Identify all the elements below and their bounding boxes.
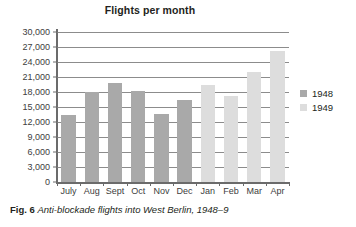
bar-dec-1948 (177, 100, 191, 182)
bar-apr-1949 (270, 51, 284, 182)
bar-sept-1948 (108, 83, 122, 182)
x-axis-label-oct: Oct (131, 186, 145, 196)
x-axis-label-apr: Apr (270, 186, 284, 196)
y-axis-tick-label: 9,000 (0, 132, 50, 142)
legend-item-1949: 1949 (300, 102, 356, 113)
y-axis-tick (53, 62, 58, 63)
legend-label: 1948 (312, 88, 333, 99)
y-axis-tick (53, 152, 58, 153)
bar-july-1948 (61, 115, 75, 183)
legend-item-1948: 1948 (300, 88, 356, 99)
x-axis-label-dec: Dec (177, 186, 193, 196)
x-axis-label-july: July (61, 186, 77, 196)
y-axis-tick (53, 122, 58, 123)
y-axis-tick-label: 24,000 (0, 57, 50, 67)
x-axis-label-mar: Mar (246, 186, 262, 196)
y-axis-tick (53, 77, 58, 78)
y-axis-tick (53, 182, 58, 183)
bar-oct-1948 (131, 91, 145, 182)
x-axis-label-feb: Feb (223, 186, 239, 196)
y-axis-tick-label: 18,000 (0, 87, 50, 97)
legend-label: 1949 (312, 102, 333, 113)
y-axis-tick-label: 6,000 (0, 147, 50, 157)
bar-aug-1948 (85, 92, 99, 182)
x-axis-labels: JulyAugSeptOctNovDecJanFebMarApr (57, 186, 289, 200)
y-axis-tick-label: 21,000 (0, 72, 50, 82)
y-axis-tick (53, 167, 58, 168)
bars-group (57, 32, 289, 182)
y-axis-tick (53, 47, 58, 48)
caption-text: Anti-blockade flights into West Berlin, … (37, 204, 228, 215)
chart-title: Flights per month (0, 4, 300, 16)
x-axis-label-nov: Nov (153, 186, 169, 196)
caption-prefix: Fig. 6 (10, 204, 35, 215)
bar-feb-1949 (224, 96, 238, 182)
chart-legend: 19481949 (300, 88, 356, 116)
figure-container: Flights per month 30,00027,00024,00021,0… (0, 0, 356, 227)
y-axis-tick-label: 27,000 (0, 42, 50, 52)
y-axis-tick-label: 3,000 (0, 162, 50, 172)
plot-area (57, 32, 289, 182)
y-axis-tick-label: 30,000 (0, 27, 50, 37)
x-axis-label-jan: Jan (201, 186, 216, 196)
figure-caption: Fig. 6 Anti-blockade flights into West B… (10, 204, 350, 215)
y-axis-tick (53, 107, 58, 108)
bar-jan-1949 (201, 85, 215, 183)
legend-swatch-icon (300, 90, 307, 97)
y-axis-tick-label: 12,000 (0, 117, 50, 127)
y-axis-tick (53, 137, 58, 138)
y-axis-tick-label: 15,000 (0, 102, 50, 112)
x-axis-tick (289, 182, 290, 186)
x-axis-label-sept: Sept (106, 186, 125, 196)
x-axis-label-aug: Aug (84, 186, 100, 196)
bar-mar-1949 (247, 72, 261, 183)
y-axis-tick (53, 32, 58, 33)
bar-nov-1948 (154, 114, 168, 183)
y-axis-tick-label: 0 (0, 177, 50, 187)
y-axis-labels: 30,00027,00024,00021,00018,00015,00012,0… (0, 32, 50, 182)
y-axis-tick (53, 92, 58, 93)
legend-swatch-icon (300, 104, 307, 111)
